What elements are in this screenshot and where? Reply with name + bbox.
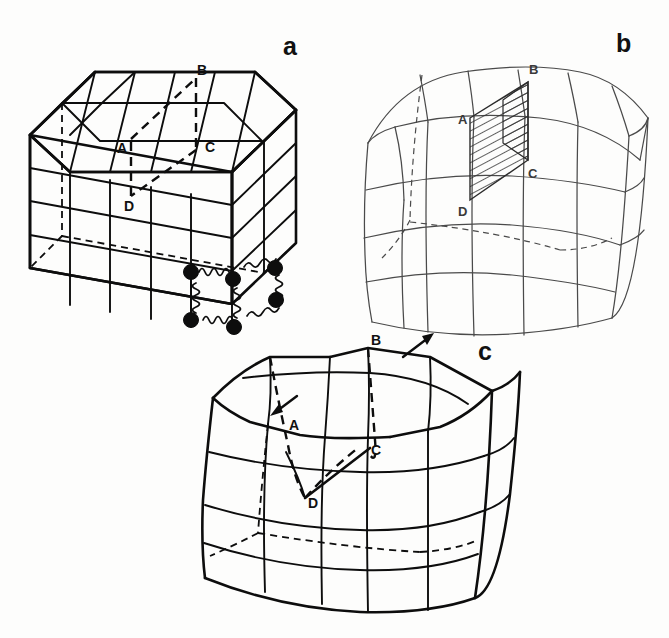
- spring-node: [269, 293, 284, 308]
- panel-b-label-C: C: [528, 166, 538, 181]
- panel-c-letter: c: [478, 337, 492, 365]
- panel-a-fault-plane-ABCD: [131, 78, 196, 196]
- spring-node: [184, 313, 199, 328]
- figure-root: a A B C D: [0, 0, 669, 638]
- panel-a-letter: a: [283, 32, 298, 60]
- panel-b-label-B: B: [529, 62, 538, 77]
- panel-c-top-face: [213, 348, 492, 438]
- spring-element: [247, 308, 279, 316]
- panel-c-label-A: A: [289, 417, 299, 433]
- panel-b-label-D: D: [458, 204, 467, 219]
- panel-a-label-C: C: [205, 139, 215, 155]
- panel-b-fault-plane-ABCD: [470, 82, 528, 200]
- panel-a-top-face: [30, 72, 296, 172]
- spring-node: [268, 261, 283, 276]
- panel-b-label-A: A: [458, 112, 468, 127]
- panel-c-hidden-edges: [210, 424, 478, 556]
- spring-element: [199, 269, 229, 276]
- panel-c-slip-arrows: [270, 333, 434, 416]
- figure-canvas: a A B C D: [0, 0, 669, 638]
- panel-c: c B A C D: [202, 332, 520, 612]
- panel-a-label-B: B: [197, 62, 207, 78]
- panel-a: a A B C D: [30, 32, 298, 335]
- panel-c-label-D: D: [308, 495, 318, 511]
- panel-a-label-A: A: [117, 140, 127, 156]
- panel-c-right-face: [475, 372, 520, 598]
- spring-node: [226, 272, 241, 287]
- slip-direction-arrow-down-left: [270, 396, 297, 416]
- slip-direction-arrow-up-right: [403, 333, 434, 357]
- panel-b-letter: b: [616, 29, 631, 57]
- spring-node: [184, 265, 199, 280]
- panel-a-label-D: D: [124, 198, 134, 214]
- spring-node: [227, 320, 242, 335]
- panel-b: b B A C D: [364, 29, 648, 336]
- panel-c-label-C: C: [371, 442, 381, 458]
- panel-c-label-B: B: [371, 332, 381, 348]
- panel-a-right-face: [232, 110, 296, 304]
